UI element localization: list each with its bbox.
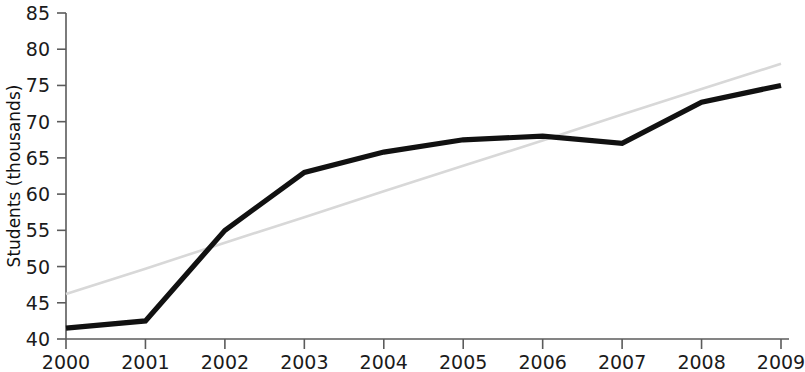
y-tick-label: 70 [26,111,50,133]
x-tick-label: 2004 [360,351,408,372]
y-tick-label-group: 40455055606570758085 [26,2,50,350]
x-tick-label: 2007 [598,351,646,372]
x-tick-label: 2000 [42,351,90,372]
x-tick-group [66,339,781,349]
x-tick-label: 2009 [757,351,805,372]
y-tick-label: 60 [26,183,50,205]
x-tick-label-group: 2000200120022003200420052006200720082009 [42,351,805,372]
y-tick-label: 50 [26,256,50,278]
x-tick-label: 2005 [439,351,487,372]
y-tick-label: 55 [26,219,50,241]
x-tick-label: 2008 [677,351,725,372]
x-axis-group: 2000200120022003200420052006200720082009 [42,339,805,372]
y-tick-group [57,13,66,339]
y-axis-group: 40455055606570758085 [26,2,66,350]
x-tick-label: 2001 [121,351,169,372]
x-tick-label: 2003 [280,351,328,372]
chart-canvas: 40455055606570758085 2000200120022003200… [0,0,805,372]
students-line-series [66,85,781,328]
y-tick-label: 45 [26,292,50,314]
y-tick-label: 80 [26,38,50,60]
plot-area [66,64,781,328]
trend-line-series [66,64,781,294]
y-axis-title: Students (thousands) [4,85,24,268]
x-tick-label: 2006 [518,351,566,372]
line-chart: 40455055606570758085 2000200120022003200… [0,0,805,372]
y-tick-label: 40 [26,328,50,350]
y-tick-label: 85 [26,2,50,24]
y-tick-label: 65 [26,147,50,169]
y-tick-label: 75 [26,74,50,96]
x-tick-label: 2002 [201,351,249,372]
